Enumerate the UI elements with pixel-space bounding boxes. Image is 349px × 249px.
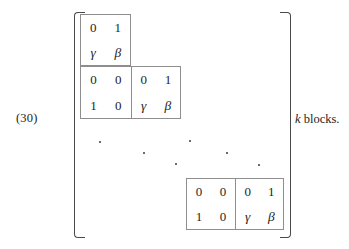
matrix-cell: γ xyxy=(81,40,106,65)
k-blocks-annotation: k blocks. xyxy=(295,112,339,127)
companion-block: 0 1 γ β xyxy=(81,15,130,65)
matrix-cell: 0 xyxy=(106,67,131,93)
ellipsis-dot xyxy=(175,163,177,165)
ellipsis-dot xyxy=(226,152,228,154)
ellipsis-dot xyxy=(189,140,191,142)
matrix-cell: 0 xyxy=(81,15,106,40)
matrix-cell: 1 xyxy=(260,179,284,204)
matrix-cell: 0 xyxy=(132,67,156,93)
matrix-block-row-2: 0 0 1 0 0 1 γ β xyxy=(80,66,181,119)
annotation-variable: k xyxy=(295,112,301,126)
ellipsis-dot xyxy=(258,164,260,166)
matrix-cell: 1 xyxy=(156,67,180,93)
matrix-cell: β xyxy=(106,40,131,65)
matrix-cell: 0 xyxy=(211,179,235,204)
matrix-block-row-k: 0 0 1 0 0 1 γ β xyxy=(186,178,284,230)
equation-number: (30) xyxy=(16,111,38,126)
ellipsis-dot xyxy=(99,141,101,143)
matrix-cell: 0 xyxy=(236,179,260,204)
coupling-block: 0 0 1 0 xyxy=(81,67,131,118)
matrix-cell: 0 xyxy=(106,93,131,119)
equation-figure: (30) 0 1 γ β 0 0 1 0 0 1 γ β 0 0 1 xyxy=(0,0,349,249)
companion-block: 0 1 γ β xyxy=(131,67,181,118)
matrix-cell: 0 xyxy=(187,179,211,204)
coupling-block: 0 0 1 0 xyxy=(187,179,235,229)
matrix-cell: 0 xyxy=(81,67,106,93)
matrix-cell: 0 xyxy=(211,204,235,229)
annotation-text: blocks. xyxy=(304,112,340,126)
matrix-cell: β xyxy=(156,93,180,119)
matrix-cell: γ xyxy=(132,93,156,119)
matrix-cell: 1 xyxy=(81,93,106,119)
ellipsis-dot xyxy=(143,152,145,154)
matrix-cell: β xyxy=(260,204,284,229)
companion-block: 0 1 γ β xyxy=(235,179,283,229)
matrix-cell: 1 xyxy=(106,15,131,40)
matrix-block-row-1: 0 1 γ β xyxy=(80,14,131,66)
matrix-cell: γ xyxy=(236,204,260,229)
matrix-cell: 1 xyxy=(187,204,211,229)
